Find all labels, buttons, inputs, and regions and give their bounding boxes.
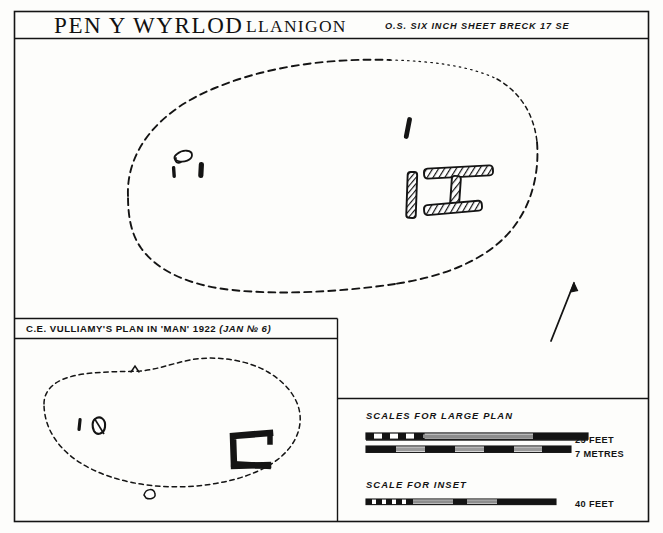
inset-caption-prefix: C.E. VULLIAMY'S PLAN IN 'MAN' 1922 (26, 323, 219, 334)
inset-caption: C.E. VULLIAMY'S PLAN IN 'MAN' 1922 (JAN … (26, 324, 271, 334)
scale-inset-heading: SCALE FOR INSET (366, 480, 467, 489)
hollow-stone-west (174, 151, 192, 163)
page-title: PEN Y WYRLOD (54, 14, 244, 37)
scale-bar-40-feet (366, 499, 556, 505)
burial-chamber-main (406, 165, 493, 218)
scale-label-7-metres: 7 METRES (575, 450, 624, 459)
scale-label-40-feet: 40 FEET (575, 500, 614, 509)
os-sheet-reference: O.S. SIX INCH SHEET BRECK 17 SE (385, 22, 570, 31)
inset-south-notch (144, 490, 155, 499)
scale-bar-25-feet (366, 433, 588, 441)
north-arrow (551, 283, 578, 341)
parish-name: LLANIGON (246, 18, 347, 36)
inset-stone-west-a (77, 418, 82, 431)
plan-sheet: PEN Y WYRLOD LLANIGON O.S. SIX INCH SHEE… (0, 0, 663, 533)
drawing-layer (0, 0, 663, 533)
scales-large-plan-heading: SCALES FOR LARGE PLAN (366, 411, 513, 420)
solid-stone-west-a (172, 166, 176, 178)
solid-stone-west-b (198, 162, 204, 178)
scale-bar-7-metres (366, 446, 571, 452)
inset-stone-west-b (93, 417, 106, 434)
inset-outline-tick (131, 366, 139, 372)
inset-caption-reference: (JAN № 6) (219, 323, 271, 334)
solid-stone-north-of-chamber (403, 117, 412, 140)
scale-label-25-feet: 25 FEET (575, 436, 614, 445)
inset-burial-chamber (233, 433, 270, 466)
sheet-frame (15, 12, 649, 522)
inset-frame (15, 319, 338, 522)
